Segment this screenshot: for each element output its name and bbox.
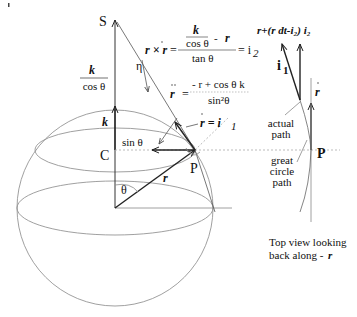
pointer-cross	[142, 60, 148, 92]
svg-text:=: =	[170, 43, 177, 57]
kinematics-diagram: S C P θ η k r sin θ k cos θ r × r = k co…	[0, 0, 357, 317]
label-theta: θ	[121, 183, 127, 197]
svg-text:path: path	[272, 128, 291, 140]
svg-text:path: path	[273, 176, 292, 188]
label-P: P	[190, 161, 198, 176]
label-S: S	[99, 14, 107, 29]
svg-text:r: r	[170, 87, 175, 101]
svg-text:k: k	[193, 23, 199, 37]
svg-text:sin²θ: sin²θ	[208, 94, 229, 106]
svg-text:2: 2	[253, 47, 259, 59]
svg-text:1: 1	[283, 64, 289, 76]
cross-product-equation: r × r = k cos θ - r tan θ = i 2	[145, 23, 259, 64]
svg-text:r: r	[225, 31, 230, 45]
svg-text:k: k	[89, 63, 95, 77]
actual-path-curve	[300, 100, 311, 212]
r-dot-equals-i1: r = i 1	[200, 113, 237, 132]
svg-text:-: -	[214, 32, 218, 44]
pointer-rdot	[186, 124, 198, 127]
svg-text:back along -: back along -	[269, 249, 324, 261]
svg-text:r × r: r × r	[145, 43, 168, 57]
tangent-line-below	[195, 150, 215, 212]
svg-text:r: r	[328, 249, 333, 261]
r-ddot-equation: r = - r + cos θ k sin²θ	[170, 78, 250, 106]
top-view: r+(r dt-i₂) i₂ i 1 r actual path P great…	[257, 24, 347, 261]
svg-text:- r + cos θ k: - r + cos θ k	[192, 78, 245, 90]
svg-text:tan θ: tan θ	[192, 52, 213, 64]
corner-mark	[8, 3, 10, 7]
svg-text:1: 1	[231, 120, 237, 132]
label-sin-theta: sin θ	[122, 136, 143, 148]
label-P-top: P	[317, 146, 326, 161]
svg-text:Top view looking: Top view looking	[269, 236, 347, 248]
k-over-cos-theta: k cos θ	[80, 63, 108, 92]
label-C: C	[100, 148, 109, 163]
svg-text:cos θ: cos θ	[83, 80, 106, 92]
svg-text:i: i	[277, 58, 281, 73]
label-eta: η	[136, 59, 142, 73]
r-vector	[115, 150, 195, 208]
top-expression: r+(r dt-i₂) i₂	[257, 24, 311, 37]
svg-text:=: =	[182, 87, 189, 101]
pointer-great-circle	[297, 140, 307, 162]
svg-text:= i: = i	[238, 43, 252, 57]
svg-text:r: r	[315, 85, 320, 99]
label-r: r	[163, 171, 168, 185]
svg-text:r = i: r = i	[200, 116, 222, 130]
label-k: k	[102, 115, 108, 129]
pointer-actual	[285, 102, 300, 115]
svg-text:cos θ: cos θ	[186, 37, 209, 49]
